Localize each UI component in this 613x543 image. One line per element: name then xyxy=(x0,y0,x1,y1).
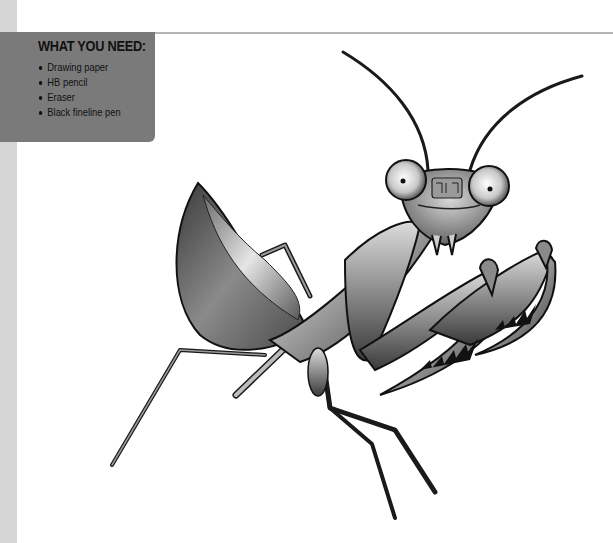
mantis-antennae xyxy=(343,52,582,170)
materials-item: HB pencil xyxy=(38,75,137,90)
mantis-right-eye xyxy=(469,166,509,206)
materials-title: WHAT YOU NEED: xyxy=(38,38,141,54)
materials-list: Drawing paper HB pencil Eraser Black fin… xyxy=(38,60,155,120)
mantis-left-eye xyxy=(386,160,426,200)
mantis-abdomen xyxy=(177,183,307,350)
materials-item: Drawing paper xyxy=(38,60,137,75)
materials-item: Eraser xyxy=(38,90,137,105)
materials-item: Black fineline pen xyxy=(38,105,137,120)
materials-box: WHAT YOU NEED: Drawing paper HB pencil E… xyxy=(0,32,155,142)
